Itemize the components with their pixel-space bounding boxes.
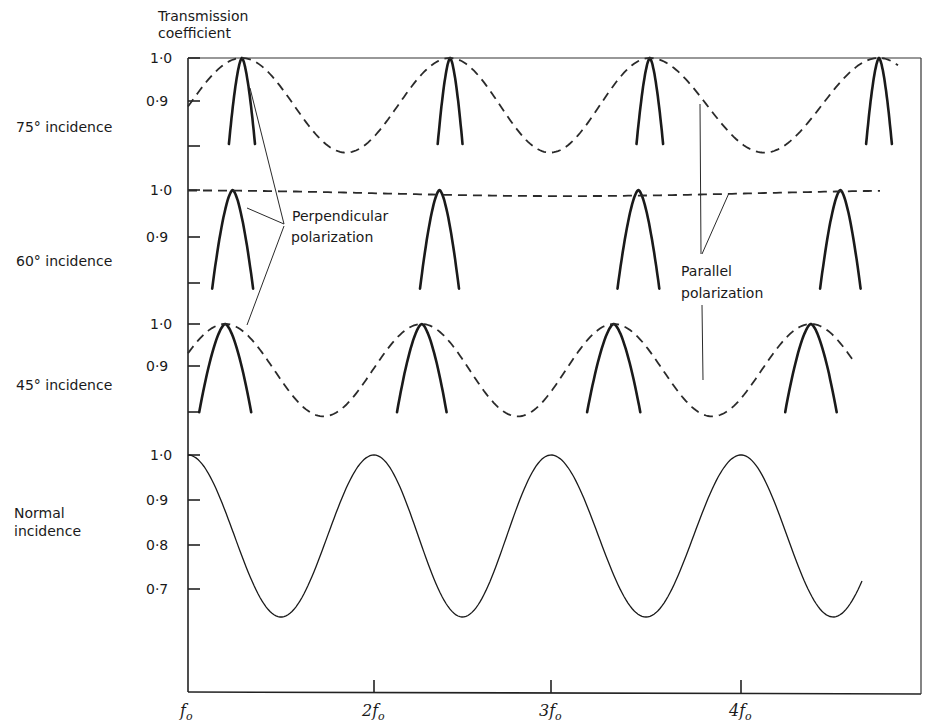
x-tick-f0: fo — [179, 701, 193, 723]
x-tick-4f0: 4fo — [728, 701, 752, 723]
perpendicular-peak — [785, 324, 837, 412]
curves — [188, 58, 898, 617]
svg-text:0·9: 0·9 — [146, 93, 168, 109]
parallel-curve — [188, 324, 854, 416]
perpendicular-peak — [229, 58, 255, 144]
perpendicular-peak — [438, 58, 463, 144]
perpendicular-peak — [199, 324, 251, 412]
perpendicular-peak — [212, 190, 253, 289]
x-tick-3f0: 3fo — [539, 701, 562, 723]
panel-normal-label-line1: Normal — [14, 505, 65, 521]
perpendicular-peak — [820, 190, 861, 289]
x-ticks — [374, 680, 741, 693]
svg-text:1·0: 1·0 — [150, 50, 172, 66]
svg-text:1·0: 1·0 — [150, 182, 172, 198]
parallel-label-line1: Parallel — [681, 263, 732, 279]
x-tick-labels: fo 2fo 3fo 4fo — [179, 701, 752, 723]
panel-60-label: 60° incidence — [16, 253, 112, 269]
panel-75-label: 75° incidence — [16, 119, 112, 135]
parallel-curve — [188, 191, 880, 197]
x-tick-2f0: 2fo — [361, 701, 385, 723]
perpendicular-peak — [397, 324, 447, 412]
perpendicular-peak — [618, 190, 660, 289]
perpendicular-label-line1: Perpendicular — [292, 208, 389, 224]
svg-text:0·9: 0·9 — [146, 229, 168, 245]
parallel-label-line2: polarization — [681, 285, 763, 301]
svg-text:0·9: 0·9 — [146, 358, 168, 374]
svg-text:0·9: 0·9 — [146, 492, 168, 508]
svg-text:0·8: 0·8 — [146, 537, 168, 553]
perpendicular-peak — [587, 324, 640, 412]
svg-text:0·7: 0·7 — [146, 581, 168, 597]
panel-75-ticks: 1·0 0·9 — [146, 50, 200, 146]
y-axis-title-line2: coefficient — [158, 25, 231, 41]
perpendicular-peak — [866, 58, 892, 144]
parallel-curve — [188, 58, 898, 153]
perpendicular-peak — [420, 190, 459, 289]
panel-normal-ticks: 1·0 0·9 0·8 0·7 — [146, 447, 200, 597]
y-axis-title-line1: Transmission — [157, 8, 248, 24]
panel-45-label: 45° incidence — [16, 377, 112, 393]
parallel-leaders — [700, 104, 729, 380]
transmission-chart: Transmission coefficient fo 2fo 3fo 4fo … — [0, 0, 932, 728]
svg-text:1·0: 1·0 — [150, 447, 172, 463]
panel-normal-label-line2: incidence — [14, 523, 81, 539]
perpendicular-label-line2: polarization — [291, 229, 373, 245]
normal-incidence-curve — [188, 455, 862, 617]
perpendicular-peak — [637, 58, 664, 144]
panel-45-ticks: 1·0 0·9 — [146, 316, 200, 412]
svg-text:1·0: 1·0 — [150, 316, 172, 332]
x-axis — [188, 692, 921, 694]
panel-60-ticks: 1·0 0·9 — [146, 182, 200, 283]
